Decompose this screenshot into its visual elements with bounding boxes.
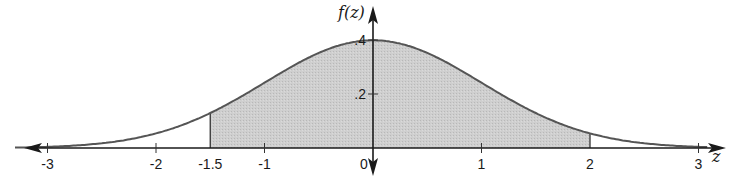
x-axis-title: z [711, 147, 721, 166]
x-tick-label: -2 [150, 156, 163, 172]
x-tick-label: 2 [586, 156, 594, 172]
y-tick-label: .4 [354, 32, 366, 48]
x-tick-label: 0 [360, 156, 368, 172]
y-tick-label: .2 [354, 86, 366, 102]
x-tick-label: -1 [258, 156, 271, 172]
x-tick-label: -3 [41, 156, 54, 172]
shaded-area [210, 40, 590, 148]
y-axis-title: f(z) [337, 3, 365, 22]
x-tick-label: -1.5 [198, 156, 222, 172]
x-tick-label: 3 [695, 156, 703, 172]
x-tick-label: 1 [478, 156, 486, 172]
normal-distribution-chart: -3-2-1.5-10123 .2.4 z f(z) [0, 0, 753, 184]
